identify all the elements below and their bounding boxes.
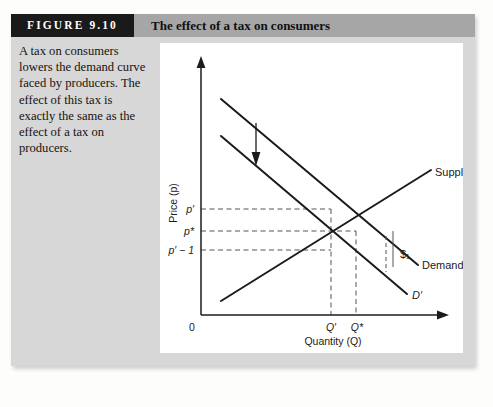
figure-panel: FIGURE 9.10 The effect of a tax on consu…: [11, 14, 475, 366]
y-tick-label-p-star: p*: [183, 225, 195, 237]
supply-curve-label: Supply: [435, 166, 463, 178]
y-axis-arrowhead: [197, 56, 206, 68]
curves: [221, 99, 431, 301]
origin-label: 0: [189, 321, 195, 333]
x-tick-label-q-prime: Q′: [326, 321, 337, 333]
x-tick-label-q-star: Q*: [351, 321, 364, 333]
figure-number-block: FIGURE 9.10: [11, 14, 134, 37]
y-tick-label-p-prime: p′: [185, 203, 195, 215]
d-prime-curve: [221, 136, 407, 294]
supply-demand-chart: Price (p) Quantity (Q) 0 p′: [160, 43, 463, 353]
demand-curve-label: Demand: [422, 259, 463, 271]
x-axis-title: Quantity (Q): [304, 335, 361, 347]
chart-card: Price (p) Quantity (Q) 0 p′: [160, 43, 463, 353]
chart-labels: Price (p) Quantity (Q) 0 p′: [167, 166, 463, 347]
page-background: FIGURE 9.10 The effect of a tax on consu…: [0, 0, 493, 407]
y-axis-title: Price (p): [167, 183, 179, 223]
x-axis-arrowhead: [437, 311, 449, 320]
tax-bracket: [386, 231, 393, 272]
figure-caption: A tax on consumers lowers the demand cur…: [19, 43, 149, 156]
shift-arrow: [252, 123, 261, 166]
figure-number-label: FIGURE 9.10: [11, 14, 134, 37]
tax-amount-label: $₁: [400, 248, 410, 260]
figure-title: The effect of a tax on consumers: [151, 14, 330, 37]
figure-header: FIGURE 9.10 The effect of a tax on consu…: [11, 14, 475, 37]
d-prime-curve-label: D′: [412, 289, 423, 301]
figure-title-block: The effect of a tax on consumers: [134, 14, 475, 37]
y-tick-label-p-prime-minus-1: p′ − 1: [167, 244, 194, 256]
axes: [197, 56, 449, 319]
supply-curve: [221, 170, 431, 301]
